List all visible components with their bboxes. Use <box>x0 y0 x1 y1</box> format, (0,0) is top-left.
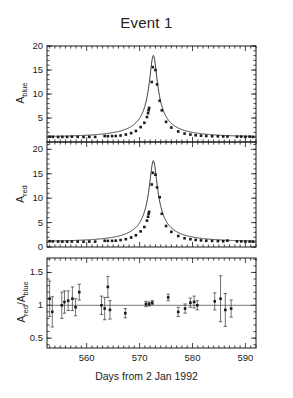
y-tick-label: 10 <box>17 192 43 203</box>
y-tick-label: 15 <box>17 64 43 75</box>
data-point <box>63 301 66 304</box>
data-point <box>124 312 127 315</box>
data-point <box>78 291 81 294</box>
y-tick-label: 10 <box>17 88 43 99</box>
y-tick-label: 5 <box>17 112 43 123</box>
data-point <box>145 303 148 306</box>
data-point <box>167 296 170 299</box>
y-tick-label: 15 <box>17 168 43 179</box>
data-point <box>74 306 77 309</box>
data-point <box>51 311 54 314</box>
x-tick-label: 570 <box>120 352 160 363</box>
data-point <box>109 309 112 312</box>
y-tick-label: 1.5 <box>17 266 43 277</box>
data-point <box>148 303 151 306</box>
y-tick-label: 0 <box>17 241 43 252</box>
data-point <box>48 297 51 300</box>
data-point <box>224 309 227 312</box>
data-point <box>151 301 154 304</box>
data-point <box>230 307 233 310</box>
data-point <box>100 304 103 307</box>
figure-root: Event 1 Ablue Ared Ared/Ablue Days from … <box>0 0 293 398</box>
x-tick-label: 590 <box>225 352 265 363</box>
y-tick-label: 20 <box>17 40 43 51</box>
x-axis-label: Days from 2 Jan 1992 <box>0 370 293 382</box>
data-point <box>67 299 70 302</box>
y-tick-label: 20 <box>17 143 43 154</box>
data-point <box>107 286 110 289</box>
data-point <box>103 307 106 310</box>
data-point <box>219 297 222 300</box>
data-point <box>193 301 196 304</box>
data-point <box>184 307 187 310</box>
y-tick-label: 1 <box>17 299 43 310</box>
y-tick-label: 5 <box>17 217 43 228</box>
data-point <box>196 304 199 307</box>
data-point <box>71 297 74 300</box>
data-point <box>61 304 64 307</box>
data-point <box>213 300 216 303</box>
panel-ratio <box>0 0 293 398</box>
data-point <box>177 311 180 314</box>
x-tick-label: 580 <box>173 352 213 363</box>
data-point <box>189 301 192 304</box>
x-tick-label: 560 <box>67 352 107 363</box>
y-tick-label: 0.5 <box>17 332 43 343</box>
